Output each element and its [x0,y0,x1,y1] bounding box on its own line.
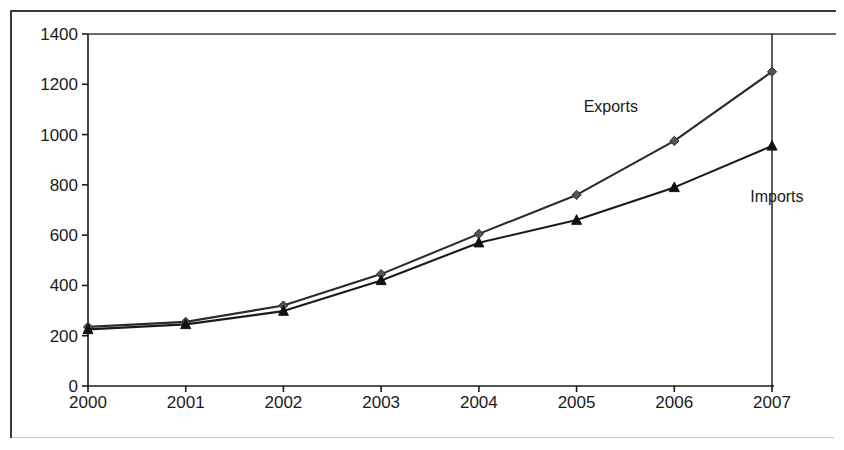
x-axis-tick-label: 2003 [362,393,400,412]
series-label-imports: Imports [750,188,803,205]
y-axis-tick-label: 800 [50,176,78,195]
page-root: 0200400600800100012001400 20002001200220… [0,0,844,450]
y-axis-tick-label: 600 [50,226,78,245]
series-label-exports: Exports [584,98,638,115]
x-axis-tick-label: 2000 [69,393,107,412]
series-line-imports [88,146,772,330]
x-axis: 20002001200220032004200520062007 [69,34,791,412]
series-annotations: ExportsImports [584,98,804,206]
series-lines [83,67,777,334]
x-axis-tick-label: 2005 [558,393,596,412]
x-axis-tick-label: 2002 [265,393,303,412]
series-line-exports [88,72,772,327]
x-axis-tick-label: 2007 [753,393,791,412]
y-axis-tick-label: 1400 [40,25,78,44]
y-axis: 0200400600800100012001400 [40,25,836,396]
line-chart: 0200400600800100012001400 20002001200220… [0,0,844,450]
y-axis-tick-label: 200 [50,327,78,346]
y-axis-tick-label: 1000 [40,126,78,145]
y-axis-tick-label: 1200 [40,75,78,94]
x-axis-tick-label: 2006 [655,393,693,412]
y-axis-tick-label: 400 [50,276,78,295]
x-axis-tick-label: 2001 [167,393,205,412]
x-axis-tick-label: 2004 [460,393,498,412]
chart-canvas: 0200400600800100012001400 20002001200220… [0,0,844,450]
data-point-marker-triangle [767,141,777,151]
data-point-marker-diamond [572,190,581,199]
